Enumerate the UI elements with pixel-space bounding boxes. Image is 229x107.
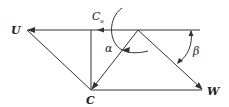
c-vector-line xyxy=(92,30,138,89)
cu-arrowhead xyxy=(97,28,104,33)
u-to-c-line xyxy=(27,30,91,90)
c-label: C xyxy=(86,94,95,107)
velocity-triangle-diagram: U C W C u α β xyxy=(0,0,229,107)
u-label: U xyxy=(11,24,22,37)
cu-subscript: u xyxy=(100,17,104,24)
w-label: W xyxy=(207,85,221,98)
beta-label: β xyxy=(192,45,199,58)
w-vector-line xyxy=(138,30,202,89)
alpha-label: α xyxy=(105,42,113,55)
alpha-arrowhead xyxy=(122,47,130,53)
beta-arrowhead-top xyxy=(189,30,194,36)
